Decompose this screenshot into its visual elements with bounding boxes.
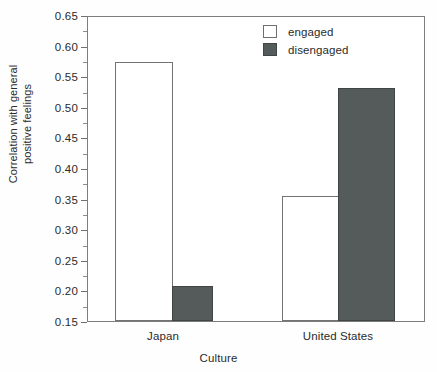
legend-swatch-disengaged — [263, 43, 277, 56]
x-tick-label: Japan — [147, 330, 179, 342]
bar-japan-engaged — [115, 62, 173, 321]
bar-united-states-engaged — [282, 196, 339, 321]
legend-label: disengaged — [288, 44, 348, 56]
y-tick-label: 0.55 — [42, 71, 78, 83]
y-tick-label: 0.15 — [42, 316, 78, 328]
y-axis-title-line-1: Correlation with general — [6, 24, 20, 224]
y-tick-label: 0.60 — [42, 41, 78, 53]
chart-legend: engageddisengaged — [263, 23, 393, 59]
y-tick-label: 0.45 — [42, 132, 78, 144]
y-tick-label: 0.25 — [42, 255, 78, 267]
y-tick-mark — [81, 322, 87, 323]
y-axis-title-line-2: positive feelings — [20, 24, 34, 224]
bar-chart-figure: Correlation with general positive feelin… — [0, 0, 437, 372]
x-axis-title: Culture — [0, 352, 437, 364]
x-tick-label: United States — [303, 330, 373, 342]
y-tick-label: 0.40 — [42, 163, 78, 175]
legend-item-engaged: engaged — [263, 23, 393, 40]
bar-united-states-disengaged — [338, 88, 395, 321]
y-tick-label: 0.20 — [42, 285, 78, 297]
y-tick-label: 0.30 — [42, 224, 78, 236]
y-tick-label: 0.65 — [42, 10, 78, 22]
plot-area — [87, 16, 425, 322]
legend-label: engaged — [288, 26, 333, 38]
y-axis-tick-labels: 0.650.600.550.500.450.400.350.300.250.20… — [38, 0, 78, 372]
bar-japan-disengaged — [172, 286, 213, 321]
legend-item-disengaged: disengaged — [263, 41, 393, 58]
y-tick-label: 0.35 — [42, 194, 78, 206]
legend-swatch-engaged — [263, 25, 277, 38]
y-tick-label: 0.50 — [42, 102, 78, 114]
